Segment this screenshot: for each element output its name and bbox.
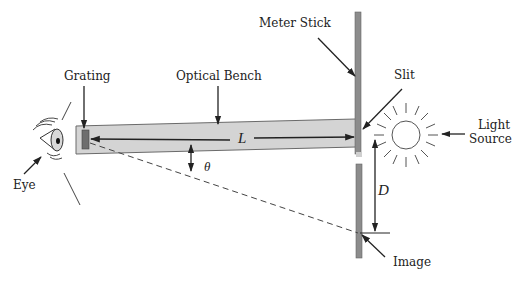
length-arrow-right xyxy=(254,137,354,138)
optical-bench-label: Optical Bench xyxy=(176,69,262,83)
meter-stick-lower xyxy=(356,164,362,258)
length-label: L xyxy=(237,130,246,146)
length-arrow-left xyxy=(91,139,230,140)
grating-label: Grating xyxy=(64,69,111,83)
slit-label: Slit xyxy=(394,68,415,82)
meter-stick-pointer xyxy=(318,38,355,76)
light-source-icon xyxy=(374,103,438,167)
light-source-label-line2: Source xyxy=(469,132,512,146)
eye-label: Eye xyxy=(13,178,36,192)
diffraction-setup-diagram: L θ D xyxy=(0,0,525,282)
theta-label: θ xyxy=(204,159,211,174)
grating xyxy=(82,130,89,149)
image-pointer xyxy=(362,235,385,257)
meter-stick-label: Meter Stick xyxy=(259,16,331,30)
eye-pointer xyxy=(24,157,41,174)
slit-aperture xyxy=(356,152,362,157)
eye-icon xyxy=(33,118,63,159)
distance-label: D xyxy=(377,182,389,198)
meter-stick xyxy=(355,12,361,154)
view-line-lower xyxy=(64,173,80,205)
optical-bench xyxy=(76,119,356,154)
view-line-upper xyxy=(62,102,71,120)
image-label: Image xyxy=(393,255,431,269)
light-source-label-line1: Light xyxy=(478,118,510,132)
diffracted-ray xyxy=(90,143,358,233)
slit-pointer xyxy=(363,89,402,129)
